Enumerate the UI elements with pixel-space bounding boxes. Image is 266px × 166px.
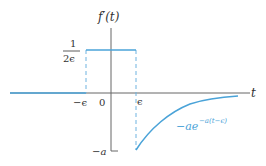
tick-eps: ϵ bbox=[137, 96, 143, 107]
tick-neg-eps: −ϵ bbox=[73, 97, 87, 108]
pulse-height-denominator: 2ϵ bbox=[63, 53, 75, 64]
tick-neg-a: −a bbox=[92, 146, 106, 157]
curve-label-base: −ae bbox=[176, 120, 199, 133]
tick-zero: 0 bbox=[99, 97, 105, 108]
y-axis-label: f′(t) bbox=[97, 10, 120, 24]
x-axis-label: t bbox=[251, 86, 256, 100]
pulse-height-numerator: 1 bbox=[70, 38, 76, 49]
derivative-diagram: f′(t) t 1 2ϵ −ϵ 0 ϵ −a −ae −a(t−ϵ) bbox=[0, 0, 266, 166]
curve-label-exponent: −a(t−ϵ) bbox=[199, 117, 227, 125]
